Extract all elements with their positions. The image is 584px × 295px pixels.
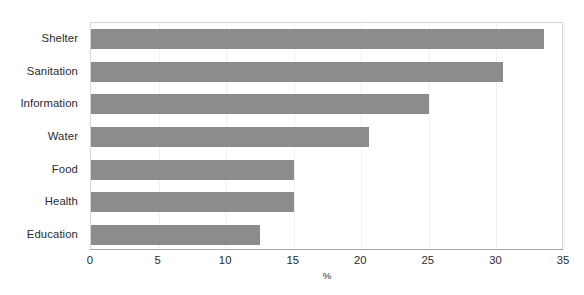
bar bbox=[91, 94, 429, 114]
x-axis-tick-15: 15 bbox=[286, 254, 299, 266]
x-axis-title: % bbox=[323, 270, 332, 281]
x-axis-tick-25: 25 bbox=[422, 254, 435, 266]
x-axis-tick-10: 10 bbox=[219, 254, 232, 266]
x-axis-tick-30: 30 bbox=[489, 254, 502, 266]
y-axis-label-information: Information bbox=[20, 93, 78, 113]
y-axis-label-food: Food bbox=[52, 159, 78, 179]
y-axis-label-sanitation: Sanitation bbox=[27, 61, 78, 81]
y-axis-category-labels: ShelterSanitationInformationWaterFoodHea… bbox=[0, 22, 84, 250]
y-axis-label-shelter: Shelter bbox=[42, 28, 79, 48]
bar bbox=[91, 29, 544, 49]
caption-remnant bbox=[6, 0, 426, 3]
x-axis-tick-35: 35 bbox=[557, 254, 570, 266]
bar bbox=[91, 62, 503, 82]
bar bbox=[91, 127, 369, 147]
y-axis-label-health: Health bbox=[45, 191, 78, 211]
bar bbox=[91, 160, 294, 180]
gridline bbox=[429, 23, 430, 249]
x-axis-line bbox=[90, 249, 563, 250]
bar-chart-figure: ShelterSanitationInformationWaterFoodHea… bbox=[0, 0, 584, 295]
bar bbox=[91, 192, 294, 212]
y-axis-label-water: Water bbox=[48, 126, 78, 146]
y-axis-label-education: Education bbox=[27, 224, 78, 244]
plot-inner bbox=[91, 23, 562, 249]
x-axis-tick-20: 20 bbox=[354, 254, 367, 266]
gridline bbox=[496, 23, 497, 249]
x-axis-tick-0: 0 bbox=[87, 254, 93, 266]
plot-area bbox=[90, 22, 563, 250]
gridline bbox=[564, 23, 565, 249]
x-axis-tick-5: 5 bbox=[154, 254, 160, 266]
bar bbox=[91, 225, 260, 245]
